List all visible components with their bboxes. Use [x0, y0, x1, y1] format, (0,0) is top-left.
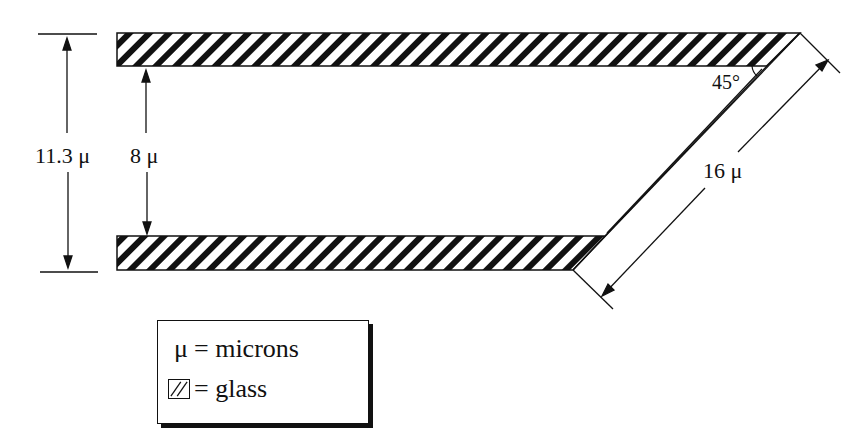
bottom-glass-wall — [117, 236, 605, 270]
legend-item-microns: μ = microns — [168, 329, 368, 369]
glass-channel-diagram: 45° 11.3 μ 8 μ 16 μ — [0, 0, 865, 443]
angle-arc — [752, 66, 757, 76]
diagonal-glass-wall — [573, 33, 800, 270]
mu-symbol: μ — [168, 334, 194, 364]
angle-label: 45° — [712, 71, 740, 93]
top-glass-wall — [117, 33, 800, 66]
diagonal-length-label: 16 μ — [703, 158, 742, 183]
legend-text-microns: = microns — [194, 334, 299, 364]
glass-hatch-icon — [168, 379, 190, 399]
inner-height-label: 8 μ — [130, 143, 158, 168]
legend-box: μ = microns = glass — [157, 320, 369, 424]
legend-text-glass: = glass — [194, 374, 267, 404]
legend-item-glass: = glass — [168, 369, 368, 409]
outer-height-label: 11.3 μ — [35, 143, 90, 168]
